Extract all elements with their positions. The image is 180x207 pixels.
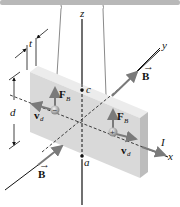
b-field-line-lower xyxy=(5,162,42,190)
hall-effect-diagram: z y x I B → B → c a F B − v d F B + v d … xyxy=(0,0,180,207)
height-tick-top xyxy=(9,72,20,80)
point-c xyxy=(80,88,84,92)
force-label-right: F xyxy=(117,110,124,122)
support-bar xyxy=(0,0,180,5)
force-label-left: F xyxy=(59,88,66,100)
vector-arrow-accent: → xyxy=(39,158,50,170)
charge-negative-sign: − xyxy=(53,106,58,115)
y-axis-label: y xyxy=(161,39,167,51)
thickness-arrow-left xyxy=(15,49,26,58)
x-axis-label: x xyxy=(167,150,173,162)
height-tick-bottom xyxy=(9,141,20,149)
point-c-label: c xyxy=(86,83,91,95)
z-axis-label: z xyxy=(79,7,85,19)
force-label-left-sub: B xyxy=(66,95,71,103)
b-field-arrow-upper xyxy=(112,72,137,96)
suspension-wire-right xyxy=(103,5,106,95)
current-label: I xyxy=(160,136,166,148)
vector-arrow-accent: → xyxy=(143,60,154,72)
height-label: d xyxy=(10,106,16,118)
force-label-right-sub: B xyxy=(124,117,129,125)
suspension-wire-left xyxy=(57,5,62,75)
charge-positive-sign: + xyxy=(110,128,115,137)
point-a-label: a xyxy=(84,156,90,168)
drift-label-right-sub: d xyxy=(127,150,131,158)
drift-label-left-sub: d xyxy=(40,115,44,123)
thickness-arrow-right xyxy=(37,29,48,38)
slab-side-face xyxy=(140,112,148,178)
thickness-label: t xyxy=(29,37,33,49)
